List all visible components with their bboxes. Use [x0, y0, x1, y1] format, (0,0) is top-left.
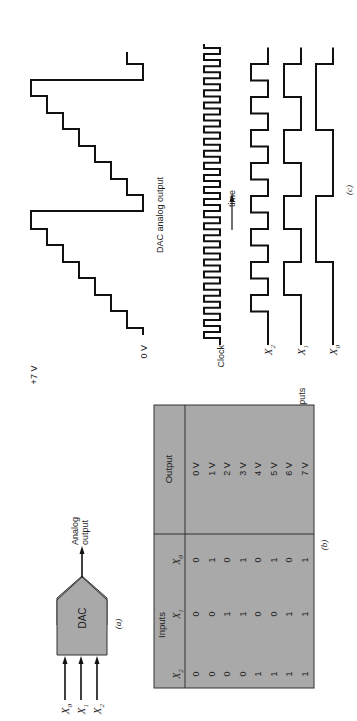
table-cell-x2: 0 [222, 671, 232, 676]
table-cell-x2: 1 [284, 671, 294, 676]
table-cell-x0: 0 [191, 557, 201, 562]
x1-waveform [284, 48, 301, 346]
table-cell-output: 3 V [238, 462, 248, 476]
table-cell-x1: 1 [238, 611, 248, 616]
table-cell-x1: 0 [207, 611, 217, 616]
table-cell-x1: 0 [269, 611, 279, 616]
analog-output-arrow-icon [80, 546, 85, 577]
dac-input-x0-label: X0 [59, 704, 74, 716]
table-cell-x2: 1 [253, 671, 263, 676]
table-cell-output: 0 V [191, 462, 201, 476]
clock-label: Clock [216, 345, 226, 368]
table-cell-x0: 1 [207, 557, 217, 562]
x2-waveform [251, 48, 268, 346]
table-cell-output: 4 V [253, 462, 263, 476]
plus-7v-label: +7 V [29, 366, 39, 385]
analog-output-label-line2: output [80, 519, 90, 545]
table-cell-x0: 0 [284, 557, 294, 562]
table-cell-x0: 1 [238, 557, 248, 562]
table-cell-x0: 0 [253, 557, 263, 562]
table-cell-x2: 1 [300, 671, 310, 676]
analog-output-label-line1: Analog [70, 517, 80, 545]
table-cell-output: 1 V [207, 462, 217, 476]
table-header-output: Output [163, 454, 174, 483]
table-cell-output: 5 V [269, 462, 279, 476]
table-cell-x1: 0 [191, 611, 201, 616]
dac-output-title: DAC analog output [155, 176, 165, 253]
panel-b-caption: (b) [319, 540, 329, 551]
table-cell-x1: 1 [222, 611, 232, 616]
x0-waveform [316, 48, 333, 346]
x2-signal-label: X2 [262, 345, 277, 357]
table-cell-output: 2 V [222, 462, 232, 476]
dac-analog-output-waveform [31, 52, 143, 335]
x1-signal-label: X1 [295, 345, 310, 356]
table-cell-output: 7 V [300, 462, 310, 476]
input-arrows [63, 656, 100, 700]
dac-block-label: DAC [77, 607, 88, 628]
table-cell-x0: 1 [269, 557, 279, 562]
table-cell-x1: 0 [253, 611, 263, 616]
table-cell-output: 6 V [284, 462, 294, 476]
table-cell-x0: 1 [300, 557, 310, 562]
x0-signal-label: X0 [327, 345, 342, 357]
time-label: time [227, 190, 237, 207]
table-cell-x1: 1 [300, 611, 310, 616]
table-cell-x2: 0 [191, 671, 201, 676]
dac-input-x2-label: X2 [91, 704, 106, 716]
panel-c-caption: (c) [344, 185, 354, 195]
zero-v-label: 0 V [139, 345, 149, 359]
clock-waveform [204, 44, 220, 345]
table-header-inputs: Inputs [156, 612, 167, 638]
truth-table [154, 405, 314, 688]
table-cell-x2: 0 [238, 671, 248, 676]
dac-input-x1-label: X1 [75, 704, 90, 715]
dac-figure: +7 V 0 V DAC analog output Clock time X2… [0, 0, 357, 721]
table-cell-x2: 1 [269, 671, 279, 676]
panel-a-caption: (a) [113, 619, 123, 630]
table-cell-x0: 0 [222, 557, 232, 562]
table-cell-x2: 0 [207, 671, 217, 676]
table-cell-x1: 1 [284, 611, 294, 616]
